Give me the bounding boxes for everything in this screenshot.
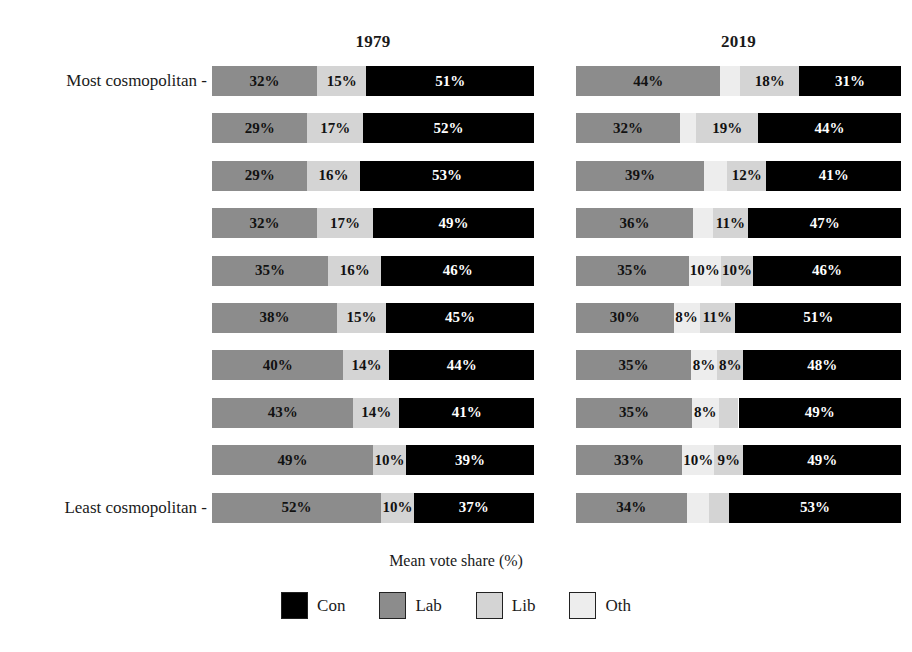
bar-segment-lab: 29% xyxy=(212,161,307,191)
bar-row: 39%12%41% xyxy=(576,161,901,191)
bar-row: 35%16%46% xyxy=(212,256,534,286)
legend-swatch-lib-icon xyxy=(476,592,503,619)
legend-label: Oth xyxy=(605,596,631,616)
bar-segment-lab: 35% xyxy=(576,256,689,286)
bar-segment-con: 52% xyxy=(363,113,534,143)
bar-segment-label: 46% xyxy=(812,262,842,279)
bar-segment-label: 35% xyxy=(619,404,649,421)
bar-segment-lib: 17% xyxy=(317,208,373,238)
bar-segment-label: 32% xyxy=(613,120,643,137)
bar-segment-lab: 35% xyxy=(212,256,328,286)
panel-2019-plot: 44%18%31%32%19%44%39%12%41%36%11%47%35%1… xyxy=(576,66,901,540)
bar-segment-oth: 8% xyxy=(691,350,717,380)
legend-swatch-con-icon xyxy=(281,592,308,619)
bar-segment-label: 48% xyxy=(807,357,837,374)
legend-item-oth[interactable]: Oth xyxy=(569,592,631,619)
bar-segment-con: 47% xyxy=(748,208,901,238)
bar-segment-label: 49% xyxy=(278,452,308,469)
bar-segment-label: 44% xyxy=(815,120,845,137)
bar-segment-lib: 18% xyxy=(740,66,799,96)
legend-item-lab[interactable]: Lab xyxy=(379,592,441,619)
bar-row: 34%53% xyxy=(576,493,901,523)
bar-segment-oth xyxy=(693,208,713,238)
bar-segment-label: 43% xyxy=(268,404,298,421)
bar-row: 40%14%44% xyxy=(212,350,534,380)
bar-segment-oth xyxy=(687,493,710,523)
bar-segment-label: 38% xyxy=(259,309,289,326)
bar-segment-label: 49% xyxy=(805,404,835,421)
bar-segment-lib: 15% xyxy=(317,66,366,96)
bar-segment-label: 53% xyxy=(432,167,462,184)
bar-segment-label: 52% xyxy=(282,499,312,516)
legend-label: Lib xyxy=(512,596,536,616)
bar-segment-lab: 38% xyxy=(212,303,337,333)
bar-segment-label: 51% xyxy=(803,309,833,326)
bar-segment-label: 35% xyxy=(618,357,648,374)
panel-title-2019: 2019 xyxy=(576,32,901,52)
bar-segment-lab: 39% xyxy=(576,161,704,191)
bar-segment-label: 11% xyxy=(703,309,732,326)
bar-segment-oth: 10% xyxy=(682,445,714,475)
bar-segment-lab: 32% xyxy=(576,113,680,143)
bar-segment-con: 48% xyxy=(743,350,901,380)
bar-segment-label: 33% xyxy=(614,452,644,469)
bar-segment-label: 8% xyxy=(675,309,698,326)
bar-segment-label: 32% xyxy=(250,73,280,90)
bar-segment-label: 47% xyxy=(810,215,840,232)
bar-row: 36%11%47% xyxy=(576,208,901,238)
bar-row: 32%17%49% xyxy=(212,208,534,238)
bar-segment-con: 49% xyxy=(743,445,901,475)
bar-segment-oth xyxy=(720,66,740,96)
legend-item-lib[interactable]: Lib xyxy=(476,592,536,619)
bar-segment-con: 37% xyxy=(414,493,534,523)
legend-item-con[interactable]: Con xyxy=(281,592,345,619)
bar-segment-label: 39% xyxy=(455,452,485,469)
bar-segment-lab: 33% xyxy=(576,445,682,475)
bar-segment-oth xyxy=(680,113,696,143)
bar-segment-lib xyxy=(709,493,729,523)
bar-segment-label: 31% xyxy=(835,73,865,90)
bar-segment-label: 41% xyxy=(819,167,849,184)
bar-segment-label: 30% xyxy=(610,309,640,326)
bar-segment-oth: 8% xyxy=(692,398,719,428)
stacked-bar-chart: 1979 2019 Most cosmopolitan - Least cosm… xyxy=(0,0,912,652)
bar-segment-con: 39% xyxy=(406,445,534,475)
bar-row: 49%10%39% xyxy=(212,445,534,475)
panel-title-1979: 1979 xyxy=(212,32,534,52)
bar-segment-con: 51% xyxy=(366,66,534,96)
bar-segment-lib xyxy=(719,398,739,428)
bar-segment-con: 53% xyxy=(729,493,901,523)
bar-segment-con: 46% xyxy=(753,256,901,286)
bar-segment-lib: 19% xyxy=(696,113,758,143)
bar-segment-con: 41% xyxy=(766,161,901,191)
bar-segment-oth xyxy=(704,161,727,191)
bar-segment-label: 37% xyxy=(459,499,489,516)
bar-segment-lib: 10% xyxy=(373,445,406,475)
bar-segment-lab: 44% xyxy=(576,66,720,96)
y-tick-most-cosmopolitan: Most cosmopolitan - xyxy=(66,66,207,96)
bar-segment-label: 12% xyxy=(732,167,762,184)
bar-segment-label: 44% xyxy=(633,73,663,90)
bar-segment-lib: 12% xyxy=(727,161,766,191)
bar-segment-label: 10% xyxy=(683,452,713,469)
bar-segment-label: 45% xyxy=(445,309,475,326)
bar-segment-con: 31% xyxy=(799,66,901,96)
bar-segment-con: 44% xyxy=(389,350,534,380)
bar-segment-lib: 10% xyxy=(381,493,414,523)
bar-segment-label: 32% xyxy=(250,215,280,232)
bar-segment-lib: 8% xyxy=(717,350,743,380)
bar-segment-lib: 11% xyxy=(713,208,749,238)
bar-segment-lab: 32% xyxy=(212,66,317,96)
y-tick-least-cosmopolitan: Least cosmopolitan - xyxy=(64,493,207,523)
bar-segment-con: 53% xyxy=(360,161,534,191)
bar-row: 33%10%9%49% xyxy=(576,445,901,475)
bar-segment-lib: 10% xyxy=(721,256,753,286)
bar-segment-label: 44% xyxy=(447,357,477,374)
bar-row: 35%8%49% xyxy=(576,398,901,428)
bar-segment-label: 8% xyxy=(693,357,716,374)
bar-row: 32%15%51% xyxy=(212,66,534,96)
chart-legend: ConLabLibOth xyxy=(0,592,912,619)
bar-segment-label: 14% xyxy=(361,404,391,421)
bar-segment-label: 8% xyxy=(719,357,742,374)
bar-segment-label: 35% xyxy=(617,262,647,279)
